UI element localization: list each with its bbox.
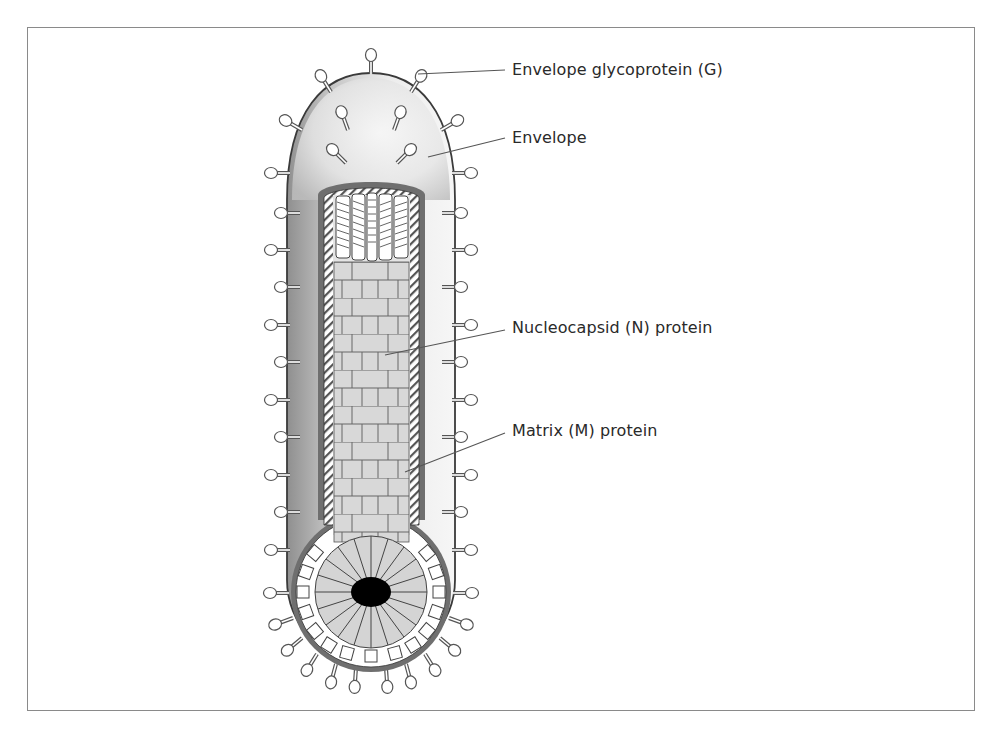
label-envelope-glycoprotein: Envelope glycoprotein (G) [512,60,723,79]
label-matrix-protein: Matrix (M) protein [512,421,658,440]
label-nucleocapsid-protein: Nucleocapsid (N) protein [512,318,713,337]
nucleocapsid-column [334,262,409,542]
virion-diagram [0,0,1001,743]
core-icon [351,577,391,607]
inner-tube [318,182,425,542]
label-envelope: Envelope [512,128,587,147]
